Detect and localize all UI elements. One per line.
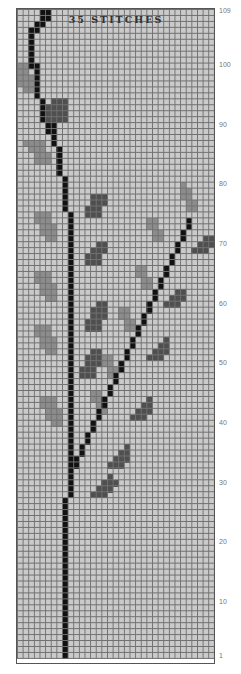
row-label-100: 100	[219, 61, 231, 68]
leaf-light	[17, 75, 34, 87]
stem-segment	[34, 63, 40, 99]
leaf-light	[45, 349, 57, 355]
leaf-dark	[191, 248, 208, 254]
stem-segment	[62, 498, 68, 660]
leaf-dark	[101, 480, 118, 486]
leaf-dark	[90, 349, 102, 355]
branch-segment	[141, 313, 147, 325]
branch-segment	[79, 444, 85, 456]
stem-segment	[62, 176, 68, 212]
row-label-60: 60	[219, 300, 227, 307]
branch-segment	[158, 277, 164, 289]
row-label-1: 1	[219, 652, 223, 659]
row-label-80: 80	[219, 180, 227, 187]
leaf-light	[34, 325, 51, 337]
leaf-light	[40, 337, 57, 349]
leaf-light	[135, 265, 147, 277]
leaf-dark	[56, 98, 68, 104]
chart-base-bar	[16, 659, 215, 664]
leaf-dark	[85, 206, 102, 218]
branch-segment	[85, 432, 91, 444]
row-label-70: 70	[219, 240, 227, 247]
stem-segment	[56, 146, 62, 176]
leaf-light	[34, 271, 51, 283]
leaf-dark	[163, 337, 169, 343]
leaf-light	[180, 188, 192, 200]
leaf-dark	[158, 343, 170, 349]
leaf-light	[23, 140, 40, 146]
branch-segment	[135, 325, 141, 337]
branch-segment	[146, 301, 152, 313]
branch-segment	[180, 230, 186, 242]
branch-segment	[124, 349, 130, 361]
leaf-light	[40, 283, 57, 295]
leaf-light	[17, 63, 29, 75]
branch-segment	[96, 409, 102, 421]
branch-segment	[175, 242, 181, 254]
leaf-dark	[90, 248, 107, 254]
leaf-dark	[197, 242, 214, 248]
leaf-dark	[175, 289, 187, 295]
leaf-dark	[85, 319, 102, 331]
leaf-light	[118, 307, 130, 319]
leaf-dark	[85, 253, 102, 265]
row-label-109: 109	[219, 7, 231, 14]
leaf-dark	[96, 194, 108, 200]
leaf-dark	[90, 307, 107, 319]
branch-segment	[152, 289, 158, 301]
leaf-light	[45, 236, 57, 242]
leaf-dark	[163, 301, 180, 307]
row-label-50: 50	[219, 359, 227, 366]
leaf-light	[45, 409, 62, 421]
knitting-chart-grid	[16, 8, 215, 660]
leaf-light	[45, 295, 57, 301]
stem-segment	[51, 122, 57, 146]
leaf-light	[146, 218, 158, 230]
leaf-light	[51, 420, 63, 426]
leaf-dark	[130, 415, 147, 421]
leaf-dark	[135, 409, 152, 415]
leaf-dark	[124, 444, 130, 450]
branch-segment	[186, 218, 192, 230]
branch-segment	[113, 373, 119, 385]
branch-segment	[118, 361, 124, 373]
leaf-light	[40, 397, 57, 409]
leaf-dark	[90, 492, 107, 498]
leaf-dark	[79, 367, 96, 379]
leaf-light	[124, 319, 136, 331]
stem-segment	[40, 98, 46, 122]
leaf-light	[90, 391, 102, 403]
leaf-light	[34, 152, 51, 164]
leaf-light	[34, 212, 51, 224]
leaf-dark	[146, 397, 152, 403]
branch-segment	[90, 420, 96, 432]
branch-segment	[163, 265, 169, 277]
branch-segment	[107, 385, 113, 397]
leaf-dark	[152, 349, 169, 355]
leaf-dark	[85, 355, 102, 367]
leaf-light	[101, 355, 113, 367]
branch-segment	[169, 253, 175, 265]
row-label-30: 30	[219, 479, 227, 486]
leaf-light	[180, 182, 186, 188]
leaf-dark	[107, 474, 113, 480]
leaf-dark	[146, 355, 163, 361]
stitch-count-caption: 35 STITCHES	[16, 14, 216, 25]
leaf-dark	[141, 403, 153, 409]
leaf-dark	[169, 295, 186, 301]
leaf-dark	[96, 242, 108, 248]
leaf-light	[23, 87, 35, 93]
leaf-dark	[96, 301, 108, 307]
leaf-light	[141, 277, 153, 289]
branch-segment	[130, 337, 136, 349]
row-label-20: 20	[219, 538, 227, 545]
row-label-10: 10	[219, 598, 227, 605]
branch-segment	[101, 397, 107, 409]
leaf-light	[152, 230, 164, 242]
leaf-light	[40, 224, 57, 236]
leaf-dark	[118, 450, 130, 456]
row-label-40: 40	[219, 419, 227, 426]
row-label-90: 90	[219, 121, 227, 128]
leaf-light	[186, 200, 198, 212]
leaf-dark	[107, 462, 124, 468]
